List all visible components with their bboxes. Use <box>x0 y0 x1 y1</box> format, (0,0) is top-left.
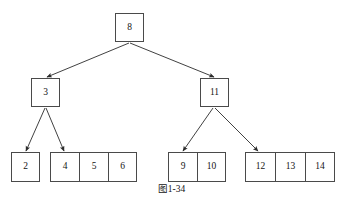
leaf-group-1: 2 <box>11 152 40 182</box>
leaf-cell-5: 5 <box>79 152 108 182</box>
edge-root-to-11 <box>130 43 214 77</box>
edge-11-to-9 <box>183 108 213 151</box>
leaf-cell-12: 12 <box>245 152 275 182</box>
leaf-cell-14: 14 <box>305 152 335 182</box>
leaf-cell-6: 6 <box>108 152 137 182</box>
figure-caption: 图1-34 <box>0 184 343 194</box>
tree-node-3: 3 <box>31 78 60 107</box>
tree-node-11: 11 <box>200 78 229 107</box>
leaf-cell-4: 4 <box>50 152 79 182</box>
leaf-cell-13: 13 <box>275 152 305 182</box>
edge-3-to-2 <box>26 108 45 151</box>
leaf-cell-10: 10 <box>197 152 226 182</box>
leaf-group-3: 910 <box>168 152 226 182</box>
edge-root-to-3 <box>47 43 129 77</box>
edge-11-to-12 <box>215 108 258 151</box>
leaf-cell-9: 9 <box>168 152 197 182</box>
figure-container: 83112456910121314 图1-34 <box>0 0 343 205</box>
leaf-group-4: 121314 <box>245 152 335 182</box>
edge-3-to-4 <box>46 108 64 151</box>
leaf-cell-2: 2 <box>11 152 40 182</box>
leaf-group-2: 456 <box>50 152 137 182</box>
tree-node-root: 8 <box>115 13 144 42</box>
